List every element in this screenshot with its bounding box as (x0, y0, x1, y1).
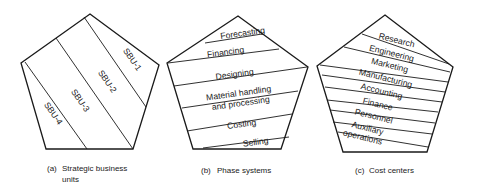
caption-text-line2: units (62, 175, 79, 184)
caption-tag: (b) (201, 166, 211, 175)
divider-line (56, 38, 133, 149)
segment-label-sbu-1: SBU-1 (121, 46, 144, 73)
pentagon-strategic-business-units: SBU-1 SBU-2 SBU-3 SBU-4 (a) Strategic bu… (21, 14, 159, 184)
phase-label-costing: Costing (226, 117, 256, 131)
phase-label-designing: Designing (215, 66, 254, 81)
phase-label-selling: Selling (242, 135, 269, 149)
pentagon-phase-systems: Forecasting Financing Designing Material… (167, 16, 308, 175)
segment-label-sbu-2: SBU-2 (96, 68, 119, 95)
caption-text: Strategic business (62, 164, 127, 173)
phase-label-financing: Financing (206, 44, 245, 59)
caption-tag: (c) (355, 166, 365, 175)
caption-text: Cost centers (369, 166, 414, 175)
pentagon-outline (21, 14, 159, 149)
figure-stage: SBU-1 SBU-2 SBU-3 SBU-4 (a) Strategic bu… (0, 0, 479, 195)
segment-label-sbu-3: SBU-3 (69, 87, 92, 114)
divider-line (25, 62, 87, 149)
caption-tag: (a) (47, 164, 57, 173)
caption-text: Phase systems (217, 166, 271, 175)
pentagon-cost-centers: Research Engineering Marketing Manufactu… (317, 15, 453, 175)
phase-label-forecasting: Forecasting (220, 25, 266, 41)
